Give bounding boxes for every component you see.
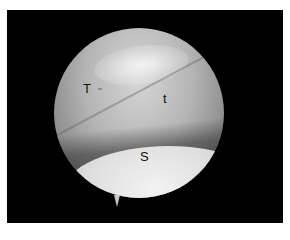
- scope-tip-notch: [114, 195, 120, 207]
- light-glare: [92, 40, 191, 91]
- label-T: T: [83, 82, 91, 95]
- tissue-speck: [98, 88, 102, 90]
- label-t: t: [163, 92, 167, 105]
- arthroscope-field: [54, 28, 224, 198]
- label-S: S: [140, 150, 149, 163]
